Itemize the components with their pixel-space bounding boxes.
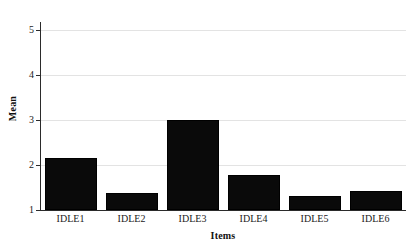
x-axis-tick-label: IDLE5 bbox=[284, 213, 345, 225]
y-axis-title: Mean bbox=[7, 84, 18, 134]
bar-chart: 54321 IDLE1IDLE2IDLE3IDLE4IDLE5IDLE6 Mea… bbox=[0, 0, 419, 251]
bar bbox=[167, 120, 219, 210]
x-axis-title: Items bbox=[40, 230, 406, 241]
x-axis-tick-label: IDLE3 bbox=[162, 213, 223, 225]
bar bbox=[45, 158, 97, 210]
bar bbox=[289, 196, 341, 210]
x-axis-tick-label: IDLE2 bbox=[101, 213, 162, 225]
bar bbox=[350, 191, 402, 210]
x-axis-tick-label: IDLE4 bbox=[223, 213, 284, 225]
x-axis-tick-label: IDLE6 bbox=[345, 213, 406, 225]
bar bbox=[106, 193, 158, 210]
bar bbox=[228, 175, 280, 210]
x-axis-tick-label: IDLE1 bbox=[40, 213, 101, 225]
